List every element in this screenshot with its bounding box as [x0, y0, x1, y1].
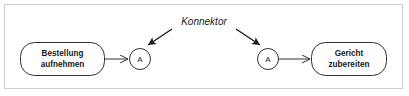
annotation-arrow-right [236, 29, 260, 45]
connector-left[interactable]: A [130, 49, 151, 70]
diagram-canvas: Bestellung aufnehmen A A Gericht zuberei… [0, 0, 409, 96]
flowchart-svg: Bestellung aufnehmen A A Gericht zuberei… [0, 0, 409, 96]
node-end-line2: zubereiten [329, 60, 370, 69]
node-shape-end [312, 43, 387, 76]
annotation-label-konnektor: Konnektor [181, 16, 227, 27]
connector-right-label: A [265, 55, 271, 64]
connector-left-label: A [137, 55, 143, 64]
node-gericht-zubereiten[interactable]: Gericht zubereiten [312, 43, 387, 76]
node-end-line1: Gericht [335, 49, 364, 58]
node-start-line2: aufnehmen [41, 60, 85, 69]
annotation-arrow-left [148, 29, 172, 45]
node-bestellung-aufnehmen[interactable]: Bestellung aufnehmen [21, 43, 105, 76]
node-start-line1: Bestellung [42, 49, 84, 58]
connector-right[interactable]: A [258, 49, 279, 70]
node-shape-start [21, 43, 105, 76]
